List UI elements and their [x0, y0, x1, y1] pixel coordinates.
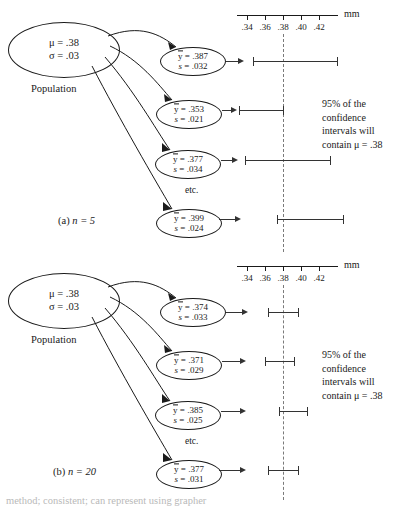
sidenote-a-line-1: confidence — [322, 111, 382, 125]
population-label-a: Population — [31, 83, 77, 94]
sidenote-b-line-1: confidence — [322, 362, 382, 376]
ci-bar-a-3 — [245, 156, 331, 165]
axis-b-tick-4: .42 — [308, 273, 330, 283]
sample-ellipse-a-2: y = .353 s = .021 — [156, 100, 222, 129]
axis-a-tick-4: .42 — [308, 22, 330, 32]
ci-bar-b-2 — [265, 357, 295, 366]
sidenote-b: 95% of the confidence intervals will con… — [322, 348, 382, 402]
sample-ellipse-b-2: y = .371 s = .029 — [156, 351, 222, 380]
sample-b-4-s: = .031 — [178, 475, 203, 485]
sample-b-1-s: = .033 — [182, 313, 207, 323]
ci-bar-b-1 — [268, 308, 299, 317]
panel-a-caption: (a) n = 5 — [58, 215, 95, 226]
sidenote-b-line-0: 95% of the — [322, 348, 382, 362]
ci-bar-a-1 — [253, 57, 338, 66]
sample-a-3-s: = .034 — [177, 165, 202, 175]
sidenote-b-line-3: contain μ = .38 — [322, 389, 382, 403]
ci-bar-a-2 — [239, 106, 284, 115]
population-sigma-b: σ = .03 — [9, 301, 119, 314]
sample-ellipse-b-1: y = .374 s = .033 — [160, 298, 226, 327]
population-mu-b: μ = .38 — [9, 288, 119, 301]
sample-a-3-ybar: = .377 — [178, 154, 203, 164]
sample-b-1-ybar: = .374 — [183, 302, 208, 312]
sample-b-3-s: = .025 — [177, 416, 202, 426]
panel-b-n20: μ = .38 σ = .03 Population y = .374 s = … — [0, 253, 412, 503]
population-ellipse-a: μ = .38 σ = .03 — [8, 22, 120, 78]
sidenote-a: 95% of the confidence intervals will con… — [322, 97, 382, 151]
panel-b-caption-n: n = 20 — [68, 466, 96, 477]
sample-b-2-ybar: = .371 — [179, 355, 204, 365]
arrow-a-2 — [222, 107, 237, 114]
sidenote-a-line-3: contain μ = .38 — [322, 138, 382, 152]
arrow-b-1 — [226, 309, 248, 316]
sidenote-a-line-0: 95% of the — [322, 97, 382, 111]
population-mu-a: μ = .38 — [9, 37, 119, 50]
bottom-cutoff-text: method; consistent; can represent using … — [6, 495, 206, 506]
sample-ellipse-a-1: y = .387 s = .032 — [160, 47, 226, 76]
sidenote-a-line-2: intervals will — [322, 124, 382, 138]
sample-ellipse-a-4: y = .399 s = .024 — [156, 209, 222, 238]
sample-a-4-s: = .024 — [178, 224, 203, 234]
sidenote-b-line-2: intervals will — [322, 375, 382, 389]
axis-a-unit-label: mm — [344, 8, 360, 19]
sample-ellipse-b-4: y = .377 s = .031 — [156, 460, 222, 489]
sample-ellipse-b-3: y = .385 s = .025 — [155, 401, 221, 430]
axis-b-unit-label: mm — [344, 259, 360, 270]
sample-a-1-s: = .032 — [182, 62, 207, 72]
arrow-b-4 — [219, 467, 246, 474]
sample-ellipse-a-3: y = .377 s = .034 — [155, 150, 221, 179]
arrow-b-3 — [221, 408, 246, 415]
etc-label-b: etc. — [185, 436, 198, 446]
sample-a-4-ybar: = .399 — [179, 213, 204, 223]
population-ellipse-b: μ = .38 σ = .03 — [8, 273, 120, 329]
population-sigma-a: σ = .03 — [9, 50, 119, 63]
panel-b-caption: (b) n = 20 — [53, 466, 96, 477]
population-label-b: Population — [31, 334, 77, 345]
arrow-a-4 — [219, 216, 241, 223]
sample-a-2-s: = .021 — [178, 115, 203, 125]
ci-bar-b-4 — [268, 466, 299, 475]
ci-bar-b-3 — [279, 407, 308, 416]
etc-label-a: etc. — [185, 185, 198, 195]
sample-a-2-ybar: = .353 — [179, 104, 204, 114]
arrow-a-3 — [221, 157, 238, 164]
sample-b-2-s: = .029 — [178, 366, 203, 376]
arrow-b-2 — [222, 358, 246, 365]
sample-a-1-ybar: = .387 — [183, 51, 208, 61]
arrow-a-1 — [226, 58, 244, 65]
panel-a-n5: μ = .38 σ = .03 Population y = .387 s = … — [0, 0, 412, 253]
sample-b-4-ybar: = .377 — [179, 464, 204, 474]
sample-b-3-ybar: = .385 — [178, 405, 203, 415]
panel-a-caption-n: n = 5 — [72, 215, 95, 226]
ci-bar-a-4 — [277, 215, 344, 224]
